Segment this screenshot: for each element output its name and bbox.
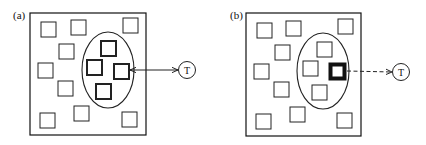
panel-b-ellipse-squares: [303, 42, 345, 100]
panel-a: (a) T: [13, 9, 196, 135]
node-square: [290, 107, 305, 122]
panel-b: (b) T: [230, 9, 410, 136]
node-square: [275, 45, 290, 60]
node-square: [40, 113, 55, 128]
node-square: [122, 112, 137, 127]
node-square: [303, 61, 318, 76]
node-square: [317, 42, 332, 57]
panel-a-ellipse: [82, 32, 134, 108]
node-square: [123, 18, 138, 33]
node-square: [286, 21, 301, 36]
node-square: [337, 113, 352, 128]
node-square: [312, 85, 327, 100]
node-square: [74, 106, 89, 121]
node-square: [71, 20, 86, 35]
node-square-bold: [114, 64, 129, 79]
panel-b-dashed-arrow: [347, 71, 392, 72]
diagram: (a) T (b): [0, 0, 426, 145]
node-square: [41, 22, 56, 37]
node-square-bold: [87, 60, 102, 75]
panel-a-ellipse-squares: [87, 41, 129, 99]
node-square-bold: [96, 84, 111, 99]
panel-a-target-label: T: [184, 65, 190, 76]
node-square: [38, 63, 53, 78]
node-square: [274, 82, 289, 97]
node-square: [59, 44, 74, 59]
node-square-heavy: [331, 65, 345, 79]
node-square: [257, 23, 272, 38]
node-square: [338, 19, 353, 34]
node-square: [254, 64, 269, 79]
node-square: [58, 81, 73, 96]
panel-b-target-label: T: [398, 67, 404, 78]
panel-b-ellipse: [297, 33, 349, 109]
node-square-bold: [101, 41, 116, 56]
panel-b-label: (b): [230, 9, 243, 22]
node-square: [256, 114, 271, 129]
panel-a-label: (a): [13, 9, 26, 22]
